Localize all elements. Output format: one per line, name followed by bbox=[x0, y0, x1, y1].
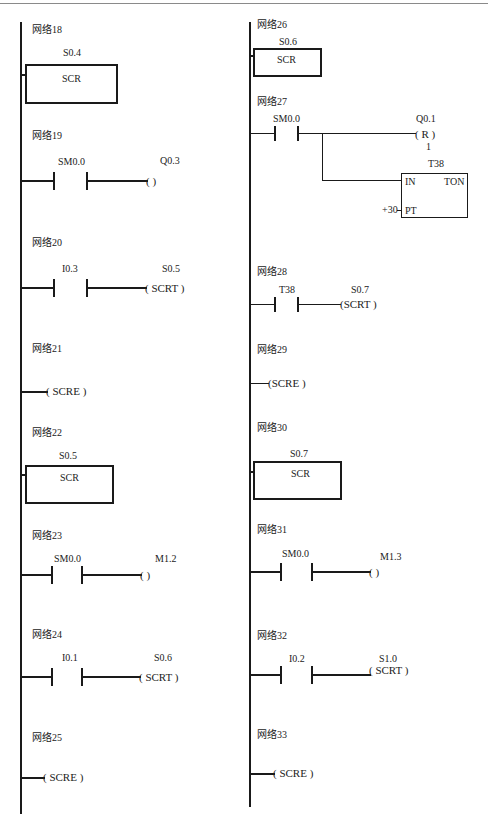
reset-count: 1 bbox=[426, 141, 431, 153]
scre-coil[interactable]: ( SCRE ) bbox=[273, 767, 313, 779]
contact-label: SM0.0 bbox=[273, 113, 300, 125]
scr-bit-label: S0.5 bbox=[59, 450, 77, 462]
top-border bbox=[0, 3, 488, 4]
network-title: 网络31 bbox=[257, 524, 287, 536]
wire bbox=[87, 287, 147, 289]
timer-preset: +30 bbox=[382, 204, 398, 216]
wire bbox=[20, 676, 53, 678]
network-title: 网络29 bbox=[257, 344, 287, 356]
coil-label: S0.5 bbox=[162, 263, 180, 275]
contact-label: SM0.0 bbox=[282, 548, 309, 560]
wire bbox=[249, 304, 275, 305]
reset-coil-label: Q0.1 bbox=[416, 113, 436, 125]
scrt-coil[interactable]: ( SCRT ) bbox=[145, 282, 184, 294]
network-title: 网络32 bbox=[257, 630, 287, 642]
network-title: 网络30 bbox=[257, 422, 287, 434]
no-contact-left[interactable] bbox=[53, 172, 55, 190]
network-title: 网络27 bbox=[257, 96, 287, 108]
wire bbox=[249, 773, 275, 775]
wire bbox=[249, 571, 281, 573]
wire bbox=[87, 180, 148, 182]
output-coil[interactable]: ( ) bbox=[146, 175, 156, 187]
scre-coil[interactable]: ( SCRE ) bbox=[43, 771, 83, 783]
no-contact-left[interactable] bbox=[280, 666, 282, 684]
wire bbox=[20, 777, 45, 779]
reset-coil[interactable]: ( R ) bbox=[415, 128, 435, 140]
scr-bit-label: S0.4 bbox=[63, 47, 81, 59]
network-title: 网络28 bbox=[257, 266, 287, 278]
scre-coil[interactable]: ( SCRE ) bbox=[46, 385, 86, 397]
coil-label: S0.7 bbox=[351, 284, 369, 296]
contact-label: SM0.0 bbox=[54, 553, 81, 565]
scre-coil[interactable]: (SCRE ) bbox=[268, 377, 306, 389]
contact-label: SM0.0 bbox=[58, 156, 85, 168]
no-contact-left[interactable] bbox=[274, 126, 276, 141]
wire bbox=[249, 383, 269, 384]
no-contact-left[interactable] bbox=[280, 563, 282, 581]
scrt-coil[interactable]: (SCRT ) bbox=[340, 298, 377, 310]
scr-bit-label: S0.7 bbox=[290, 448, 308, 460]
right-power-rail bbox=[249, 22, 251, 807]
coil-label: M1.3 bbox=[380, 551, 401, 563]
scr-bit-label: S0.6 bbox=[279, 36, 297, 48]
scrt-coil[interactable]: ( SCRT ) bbox=[139, 671, 178, 683]
scr-box-label: SCR bbox=[291, 468, 310, 480]
scr-box-label: SCR bbox=[60, 472, 79, 484]
wire bbox=[249, 133, 275, 134]
timer-in-pin: IN bbox=[405, 176, 416, 188]
timer-type: TON bbox=[444, 176, 464, 188]
branch-wire bbox=[322, 133, 323, 181]
wire bbox=[397, 210, 402, 211]
network-title: 网络20 bbox=[32, 237, 62, 249]
left-power-rail bbox=[20, 22, 22, 814]
network-title: 网络18 bbox=[32, 24, 62, 36]
wire bbox=[322, 180, 402, 181]
wire bbox=[82, 676, 141, 678]
wire bbox=[312, 674, 371, 676]
wire bbox=[20, 391, 48, 393]
wire bbox=[249, 674, 281, 676]
network-title: 网络25 bbox=[32, 732, 62, 744]
scr-box[interactable]: SCR bbox=[25, 465, 114, 504]
no-contact-left[interactable] bbox=[51, 668, 53, 686]
scrt-coil[interactable]: ( SCRT ) bbox=[369, 664, 408, 676]
timer-pt-pin: PT bbox=[405, 205, 417, 217]
scr-box[interactable]: SCR bbox=[25, 64, 118, 104]
coil-label: M1.2 bbox=[155, 553, 176, 565]
wire bbox=[20, 287, 54, 289]
contact-label: T38 bbox=[279, 284, 295, 296]
scr-box[interactable]: SCR bbox=[253, 48, 322, 77]
wire bbox=[312, 571, 371, 573]
scr-box-label: SCR bbox=[62, 73, 81, 85]
network-title: 网络19 bbox=[32, 130, 62, 142]
output-coil[interactable]: ( ) bbox=[140, 569, 150, 581]
wire bbox=[298, 304, 341, 305]
network-title: 网络26 bbox=[257, 19, 287, 31]
coil-label: S0.6 bbox=[154, 652, 172, 664]
scr-box[interactable]: SCR bbox=[253, 461, 342, 500]
no-contact-left[interactable] bbox=[51, 566, 53, 584]
network-title: 网络21 bbox=[32, 343, 62, 355]
wire bbox=[20, 180, 54, 182]
ton-timer-block[interactable]: IN TON PT bbox=[401, 173, 468, 218]
no-contact-left[interactable] bbox=[53, 279, 55, 297]
network-title: 网络22 bbox=[32, 427, 62, 439]
wire bbox=[298, 133, 416, 134]
network-title: 网络23 bbox=[32, 530, 62, 542]
coil-label: Q0.3 bbox=[160, 155, 180, 167]
network-title: 网络33 bbox=[257, 729, 287, 741]
timer-name: T38 bbox=[428, 158, 444, 170]
scr-box-label: SCR bbox=[277, 54, 296, 66]
wire bbox=[82, 574, 142, 576]
output-coil[interactable]: ( ) bbox=[369, 566, 379, 578]
network-title: 网络24 bbox=[32, 629, 62, 641]
contact-label: I0.3 bbox=[62, 263, 78, 275]
contact-label: I0.2 bbox=[289, 653, 305, 665]
contact-label: I0.1 bbox=[62, 652, 78, 664]
wire bbox=[20, 574, 53, 576]
no-contact-left[interactable] bbox=[274, 297, 276, 312]
